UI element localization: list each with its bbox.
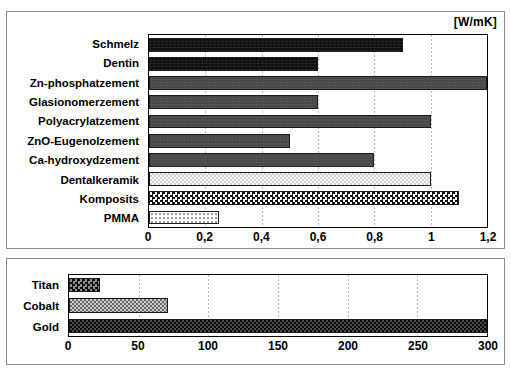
bar — [149, 57, 318, 71]
top-chart-category-labels: SchmelzDentinZn-phosphatzementGlasionome… — [0, 34, 143, 228]
x-tick-label: 0,8 — [366, 230, 383, 244]
bar — [149, 191, 459, 205]
category-label: Zn-phosphatzement — [0, 73, 143, 92]
category-label: Dentalkeramik — [0, 170, 143, 189]
x-tick-label: 1,2 — [480, 230, 497, 244]
x-tick-label: 1 — [428, 230, 435, 244]
category-label: ZnO-Eugenolzement — [0, 131, 143, 150]
bar — [69, 319, 487, 334]
x-tick-label: 0,4 — [253, 230, 270, 244]
category-label: Polyacrylatzement — [0, 112, 143, 131]
bar — [69, 278, 100, 293]
bar-row — [69, 316, 487, 336]
bottom-chart-category-labels: TitanCobaltGold — [0, 274, 63, 337]
top-chart-plot-area — [148, 34, 488, 228]
category-label: PMMA — [0, 209, 143, 228]
category-label: Ca-hydroxydzement — [0, 150, 143, 169]
x-tick-label: 0 — [145, 230, 152, 244]
x-tick-label: 200 — [338, 339, 358, 353]
bar-row — [149, 35, 487, 54]
bar — [149, 115, 431, 129]
top-chart-x-axis-ticks: 00,20,40,60,811,2 — [148, 230, 488, 248]
x-tick-label: 100 — [198, 339, 218, 353]
bar-row — [149, 189, 487, 208]
bar — [149, 95, 318, 109]
bottom-chart-x-axis-ticks: 050100150200250300 — [68, 339, 488, 357]
x-tick-label: 0,2 — [196, 230, 213, 244]
bar — [149, 211, 219, 225]
category-label: Gold — [0, 316, 63, 337]
figure-root: [W/mK] SchmelzDentinZn-phosphatzementGla… — [0, 0, 511, 372]
x-tick-label: 150 — [268, 339, 288, 353]
category-label: Glasionomerzement — [0, 92, 143, 111]
bar — [149, 76, 487, 90]
category-label: Schmelz — [0, 34, 143, 53]
unit-label: [W/mK] — [454, 15, 497, 29]
x-tick-label: 0 — [65, 339, 72, 353]
bottom-chart-plot-area — [68, 274, 488, 337]
category-label: Dentin — [0, 53, 143, 72]
bar — [149, 38, 403, 52]
bar-row — [149, 169, 487, 188]
bar — [149, 134, 290, 148]
category-label: Titan — [0, 274, 63, 295]
bar — [149, 172, 431, 186]
bar-row — [149, 73, 487, 92]
x-tick-label: 250 — [408, 339, 428, 353]
bar-row — [149, 112, 487, 131]
bar-row — [149, 150, 487, 169]
bar — [69, 298, 168, 313]
bar — [149, 153, 374, 167]
category-label: Komposits — [0, 189, 143, 208]
category-label: Cobalt — [0, 295, 63, 316]
x-tick-label: 300 — [478, 339, 498, 353]
x-tick-label: 0,6 — [310, 230, 327, 244]
x-tick-label: 50 — [131, 339, 144, 353]
